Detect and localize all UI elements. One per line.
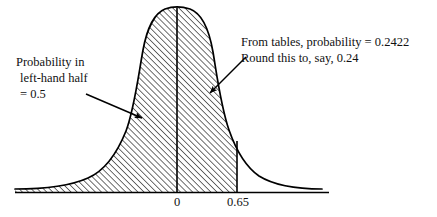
right-annotation-line-1: From tables, probability = 0.2422	[241, 34, 409, 50]
left-annotation-text: Probability in left-hand half = 0.5	[16, 54, 88, 102]
right-annotation-text: From tables, probability = 0.2422 Round …	[241, 34, 409, 66]
left-annotation-line-2: left-hand half	[16, 70, 88, 86]
left-annotation-line-1: Probability in	[16, 54, 88, 70]
right-annotation-line-2: Round this to, say, 0.24	[241, 50, 409, 66]
x-axis-tick-label-065: 0.65	[215, 195, 261, 210]
left-annotation-line-3: = 0.5	[16, 86, 88, 102]
normal-distribution-figure	[0, 0, 437, 217]
x-axis-tick-label-zero: 0	[157, 195, 197, 210]
